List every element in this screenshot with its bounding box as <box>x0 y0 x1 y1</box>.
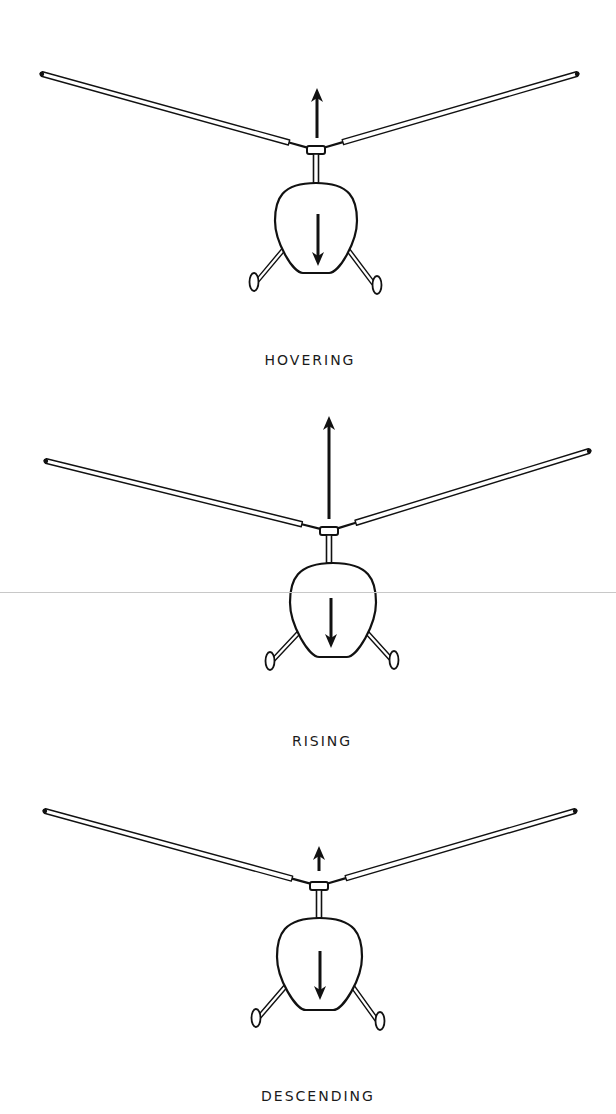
rotor-blade-right <box>355 449 591 525</box>
wheel-left <box>252 1009 261 1027</box>
rotor-blade-right <box>345 809 577 881</box>
wheel-left <box>266 652 275 670</box>
helicopter-descending <box>43 809 577 1030</box>
rotor-blade-left <box>44 459 302 527</box>
blade-tip-left <box>43 809 47 813</box>
rotor-blade-left <box>43 809 293 881</box>
blade-tip-left <box>40 72 44 76</box>
wheel-right <box>390 651 399 669</box>
blade-grip-left <box>289 143 308 148</box>
wheel-right <box>373 276 382 294</box>
blade-grip-right <box>337 523 356 529</box>
wheel-right <box>376 1012 385 1030</box>
blade-grip-right <box>327 878 346 884</box>
helicopter-rising <box>44 416 591 670</box>
blade-grip-left <box>302 524 321 529</box>
helicopter-flight-diagram <box>0 0 616 1114</box>
rotor-hub <box>307 146 325 154</box>
blade-tip-right <box>587 449 591 453</box>
wheel-left <box>250 273 259 291</box>
rotor-hub <box>310 882 328 890</box>
rotor-blade-right <box>342 72 579 145</box>
blade-tip-left <box>44 459 48 463</box>
blade-grip-left <box>292 879 311 884</box>
helicopter-hovering <box>40 72 579 294</box>
label-rising: RISING <box>292 733 352 749</box>
rotor-blade-left <box>40 72 290 145</box>
blade-tip-right <box>575 72 579 76</box>
rotor-mast <box>314 154 319 183</box>
rotor-mast <box>317 890 322 918</box>
rotor-mast <box>327 535 332 563</box>
label-hovering: HOVERING <box>265 352 356 368</box>
blade-grip-right <box>324 142 343 148</box>
scan-fold-line <box>0 592 616 593</box>
rotor-hub <box>320 527 338 535</box>
blade-tip-right <box>573 809 577 813</box>
label-descending: DESCENDING <box>261 1088 375 1104</box>
